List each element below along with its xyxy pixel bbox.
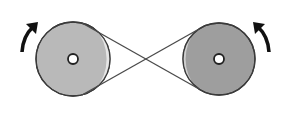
right-pulley-hub (214, 54, 224, 64)
left-rotation-arrow-icon (22, 22, 38, 52)
right-rotation-arrow-icon (253, 22, 269, 52)
left-pulley-hub (68, 54, 78, 64)
diagram-svg (0, 0, 286, 113)
right-pulley (183, 23, 255, 95)
belt-drive-diagram: Crossed belt drive between two pulleys (0, 0, 286, 113)
